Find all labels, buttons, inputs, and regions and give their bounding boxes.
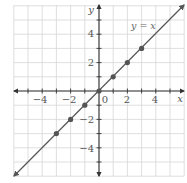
data-point (125, 60, 130, 65)
x-tick-label-4: 4 (152, 94, 158, 105)
y-tick-label-4: 4 (88, 28, 94, 39)
x-tick-label--4: −4 (33, 94, 48, 105)
data-point (139, 46, 144, 51)
y-tick-label--4: −4 (79, 143, 94, 154)
x-tick-label--2: −2 (62, 94, 77, 105)
series-annotation: y = x (130, 20, 156, 31)
y-tick-label-2: 2 (88, 57, 94, 68)
x-tick-label-2: 2 (124, 94, 130, 105)
y-tick-label--2: −2 (79, 114, 94, 125)
x-axis-label: x (177, 93, 183, 104)
data-point (111, 74, 116, 79)
data-point (54, 131, 59, 136)
data-point (96, 88, 101, 93)
data-point (68, 117, 73, 122)
data-point (82, 103, 87, 108)
y-axis-label: y (87, 4, 94, 15)
line-chart: −4 −2 0 2 4 4 2 −2 −4 x y y = x (0, 0, 187, 183)
origin-label: 0 (102, 94, 108, 105)
